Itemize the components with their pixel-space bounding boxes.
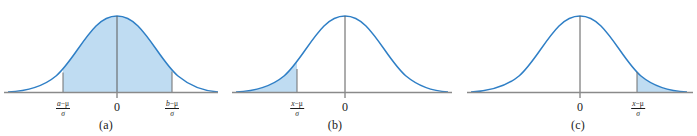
- tick-label-zero: 0: [339, 101, 351, 113]
- normal-curve: [471, 16, 687, 92]
- panel-caption-a: (a): [0, 118, 217, 133]
- tick-label-zero: 0: [574, 101, 586, 113]
- panel-a: a−μ σ 0 b−μ σ (a): [0, 0, 222, 136]
- normal-curve: [236, 16, 448, 92]
- normal-distribution-figure: a−μ σ 0 b−μ σ (a): [0, 0, 697, 136]
- panel-b: x−μ σ 0 (b): [232, 0, 454, 136]
- shaded-area-right-tail: [471, 16, 687, 92]
- tick-label-upper-bound: b−μ σ: [172, 100, 186, 120]
- panel-caption-b: (b): [224, 118, 446, 133]
- tick-label-bound: x−μ σ: [638, 100, 652, 120]
- panel-caption-c: (c): [462, 118, 694, 133]
- tick-label-zero: 0: [111, 101, 123, 113]
- shaded-area-left-tail: [236, 16, 448, 92]
- tick-label-bound: x−μ σ: [297, 100, 311, 120]
- tick-label-lower-bound: a−μ σ: [63, 100, 77, 120]
- panel-c: 0 x−μ σ (c): [465, 0, 697, 136]
- shaded-area-between: [8, 16, 218, 92]
